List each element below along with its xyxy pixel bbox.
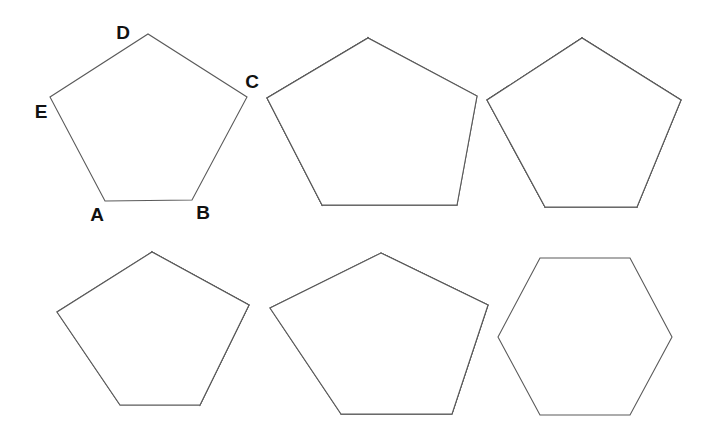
vertex-label-b: B <box>196 202 210 223</box>
vertex-label-c: C <box>245 71 259 92</box>
vertex-label-e: E <box>35 101 48 122</box>
vertex-label-d: D <box>116 22 130 43</box>
geometry-figure-canvas: A B C D E <box>0 0 719 442</box>
vertex-label-a: A <box>90 204 104 225</box>
